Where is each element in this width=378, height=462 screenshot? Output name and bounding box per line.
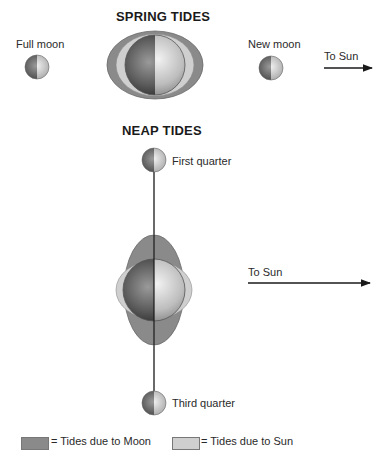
legend-moon-label: = Tides due to Moon [51,435,151,447]
legend-sun-label: = Tides due to Sun [201,435,293,447]
first-quarter-moon-icon [142,148,166,172]
spring-tides-title: SPRING TIDES [116,9,210,24]
full-moon-label: Full moon [16,38,64,50]
neap-tides-title: NEAP TIDES [122,123,202,138]
full-moon-icon [25,55,49,79]
tides-diagram [0,0,378,462]
new-moon-icon [259,56,283,80]
first-quarter-label: First quarter [172,155,231,167]
neap-to-sun-label: To Sun [248,266,282,278]
new-moon-label: New moon [248,38,301,50]
third-quarter-label: Third quarter [172,397,235,409]
spring-earth-group [107,31,203,99]
neap-earth-group [116,235,192,345]
spring-to-sun-label: To Sun [324,50,358,62]
moon-tide-swatch [21,437,49,450]
sun-tide-swatch [172,437,200,450]
third-quarter-moon-icon [142,391,166,415]
